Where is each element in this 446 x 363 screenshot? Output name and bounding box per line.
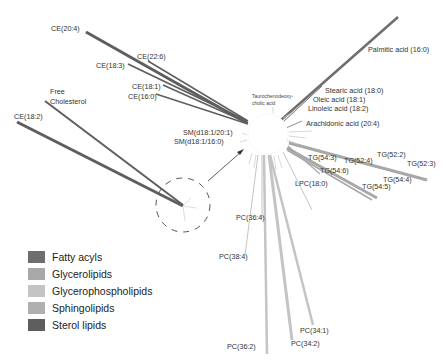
- legend-item-sterol-lipids: Sterol lipids: [28, 316, 152, 333]
- label-linoleic: Linoleic acid (18:2): [308, 104, 368, 113]
- swatch-sphingolipids: [28, 302, 45, 314]
- label-lpc-18-0: LPC(18:0): [295, 179, 328, 188]
- label-palmitic: Palmitic acid (16:0): [368, 45, 429, 54]
- swatch-glycerolipids: [28, 268, 45, 280]
- label-ce-20-4: CE(20:4): [51, 24, 80, 33]
- label-sm-16-0: SM(d18:1/16:0): [174, 137, 224, 146]
- label-ce-16-0: CE(16:0): [128, 92, 157, 101]
- label-oleic: Oleic acid (18:1): [313, 95, 365, 104]
- legend-label: Sphingolipids: [52, 302, 114, 314]
- label-center-line2: cholic acid: [252, 100, 276, 106]
- label-free-1: Free: [50, 87, 65, 96]
- secondary-hub: [17, 101, 244, 232]
- label-pc-34-1: PC(34:1): [300, 326, 329, 335]
- label-arachidonic: Arachidonic acid (20:4): [306, 119, 380, 128]
- legend-label: Glycerophospholipids: [52, 285, 152, 297]
- label-tg-54-6: TG(54:6): [320, 166, 349, 175]
- spoke-pc-38-4: [245, 155, 258, 255]
- zoom-arrow: [208, 151, 242, 181]
- swatch-glycerophospholipids: [28, 285, 45, 297]
- label-center-line1: Taurochenodeoxy-: [252, 93, 293, 99]
- label-tg-54-5: TG(54:5): [362, 182, 391, 191]
- label-ce-22-6: CE(22:6): [137, 52, 166, 61]
- label-tg-52-2: TG(52:2): [377, 150, 406, 159]
- swatch-sterol-lipids: [28, 319, 45, 331]
- legend-label: Fatty acyls: [52, 251, 102, 263]
- label-ce-18-3: CE(18:3): [96, 61, 125, 70]
- label-tg-52-3: TG(52:3): [407, 159, 436, 168]
- legend-item-glycerolipids: Glycerolipids: [28, 265, 152, 282]
- hub-circle: [248, 114, 288, 154]
- label-pc-36-4: PC(36:4): [236, 213, 265, 222]
- label-pc-34-2: PC(34:2): [291, 339, 320, 348]
- label-free-2: Cholesterol: [50, 97, 87, 106]
- label-pc-36-2: PC(36:2): [227, 342, 256, 351]
- legend: Fatty acyls Glycerolipids Glycerophospho…: [28, 248, 152, 333]
- label-tg-52-4: TG(52:4): [344, 156, 373, 165]
- label-pc-38-4: PC(38:4): [219, 252, 248, 261]
- legend-label: Sterol lipids: [52, 319, 106, 331]
- swatch-fatty-acyls: [28, 251, 45, 263]
- legend-item-glycerophospholipids: Glycerophospholipids: [28, 282, 152, 299]
- label-ce-18-1: CE(18:1): [132, 82, 161, 91]
- spoke-pc-36-2: [264, 155, 267, 354]
- spoke-arachidonic: [286, 121, 302, 128]
- spoke-ce-22-6: [148, 61, 248, 121]
- legend-item-sphingolipids: Sphingolipids: [28, 299, 152, 316]
- spoke-ce-18-1: [163, 85, 248, 123]
- label-stearic: Stearic acid (18:0): [325, 86, 383, 95]
- label-tg-54-3: TG(54:3): [308, 153, 337, 162]
- spoke-pc-34-2: [269, 155, 292, 340]
- legend-label: Glycerolipids: [52, 268, 112, 280]
- label-sm-20-1: SM(d18:1/20:1): [183, 128, 233, 137]
- spoke-free-cholesterol: [45, 101, 183, 205]
- legend-item-fatty-acyls: Fatty acyls: [28, 248, 152, 265]
- label-ce-18-2: CE(18:2): [14, 112, 43, 121]
